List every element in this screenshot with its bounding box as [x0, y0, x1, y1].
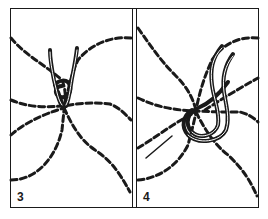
panel-4-knot-cord [184, 46, 233, 141]
panel-3-dashed-paths [11, 38, 131, 192]
knot-diagram-figure: 3 4 [0, 0, 268, 219]
step-3-label: 3 [17, 191, 24, 203]
panel-4-dashed-paths [138, 28, 258, 196]
diagram-canvas [0, 0, 268, 219]
step-4-label: 4 [143, 191, 150, 203]
